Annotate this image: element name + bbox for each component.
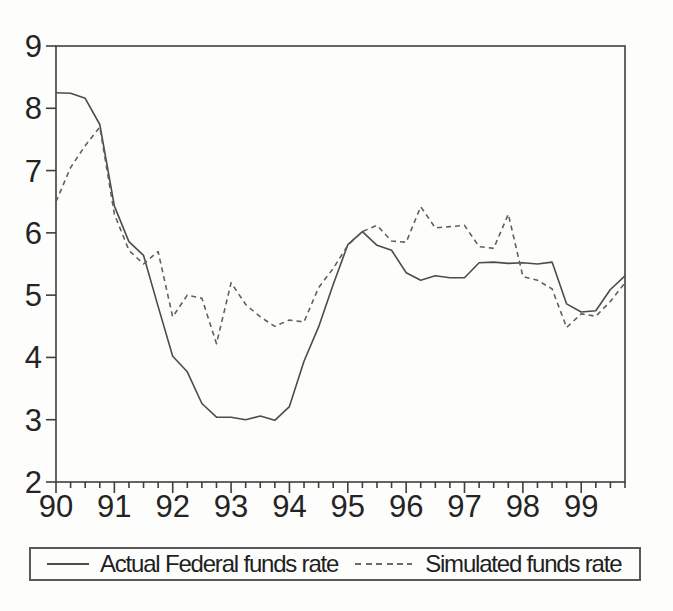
- y-tick-label: 3: [25, 403, 42, 438]
- legend-label-simulated: Simulated funds rate: [425, 550, 621, 578]
- y-tick-label: 8: [25, 91, 42, 126]
- x-tick-label: 94: [272, 489, 306, 524]
- y-tick-label: 6: [25, 216, 42, 251]
- y-tick-label: 7: [25, 154, 42, 189]
- federal-funds-rate-line-chart: 2345678990919293949596979899: [0, 0, 673, 540]
- x-tick-label: 90: [39, 489, 73, 524]
- x-tick-label: 92: [155, 489, 189, 524]
- scanned-chart-figure: 2345678990919293949596979899 Actual Fede…: [0, 0, 673, 611]
- x-tick-label: 98: [506, 489, 540, 524]
- x-tick-label: 91: [97, 489, 131, 524]
- series-dashed: [56, 127, 625, 344]
- legend-solid-line-sample: [47, 563, 89, 565]
- x-tick-label: 95: [331, 489, 365, 524]
- chart-legend: Actual Federal funds rate Simulated fund…: [29, 547, 641, 581]
- legend-label-actual: Actual Federal funds rate: [100, 550, 338, 578]
- x-tick-label: 93: [214, 489, 248, 524]
- x-tick-label: 97: [447, 489, 481, 524]
- legend-dashed-line-sample: [355, 563, 412, 565]
- y-tick-label: 5: [25, 278, 42, 313]
- x-tick-label: 99: [564, 489, 598, 524]
- x-tick-label: 96: [389, 489, 423, 524]
- y-tick-label: 4: [25, 340, 42, 375]
- y-tick-label: 9: [25, 29, 42, 64]
